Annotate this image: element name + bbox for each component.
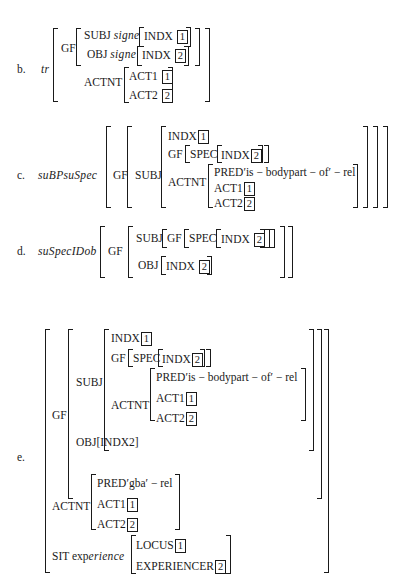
spec-indx: INDX 2: [221, 233, 265, 247]
outer-right-bracket: [383, 126, 388, 208]
sit-right-bracket: [226, 535, 231, 574]
feature-gf-spec: GF: [111, 353, 126, 365]
example-label: c.: [17, 170, 25, 182]
structure-name: tr: [41, 64, 49, 76]
subj-left-bracket: [104, 329, 109, 451]
act1-inner: ACT11: [156, 392, 197, 406]
tag-box: 2: [244, 197, 255, 211]
actnt-left-bracket: [208, 164, 213, 208]
actnt-inner-right-bracket: [301, 368, 306, 421]
example-label: b.: [17, 64, 26, 76]
outer-left-bracket: [106, 126, 111, 208]
actnt-right-bracket: [168, 67, 173, 103]
feature-actnt: ACTNT: [168, 177, 206, 189]
feature-actnt: ACTNT: [84, 77, 122, 89]
act1: ACT11: [97, 498, 138, 512]
spec-indx: INDX2: [162, 353, 203, 367]
obj-right-bracket: [207, 256, 212, 275]
experiencer: EXPERIENCER2: [136, 560, 226, 574]
subj-right-bracket: [270, 229, 275, 248]
tag-box: 1: [127, 498, 138, 512]
feature-spec: SPEC: [133, 353, 161, 365]
act2: ACT2 2: [129, 89, 173, 103]
gf2-right-bracket: [206, 349, 211, 367]
subj-right-bracket: [363, 126, 368, 208]
act2-inner: ACT22: [156, 412, 197, 426]
feature-sit: SIT experience: [52, 551, 124, 563]
feature-obj: OBJ: [138, 260, 158, 272]
feature-actnt-inner: ACTNT: [111, 400, 149, 412]
feature-gf: GF: [113, 170, 128, 182]
obj-indx: INDX 2: [142, 49, 186, 63]
structure-name: suSpecIDob: [38, 246, 97, 258]
subj-indx: INDX 1: [144, 30, 188, 44]
gf-right-bracket: [280, 226, 285, 278]
gf-right-bracket: [195, 28, 200, 66]
outer-right-bracket: [205, 28, 210, 102]
tag-box: 1: [186, 392, 197, 406]
gf-right-bracket: [317, 329, 322, 499]
example-label: d.: [17, 246, 26, 258]
subj-left-bracket: [161, 126, 166, 208]
act2: ACT22: [97, 518, 138, 532]
feature-gf: GF: [108, 246, 123, 258]
locus: LOCUS1: [136, 539, 186, 553]
gf-left-bracket: [68, 329, 73, 499]
feature-gf-spec: GF: [167, 233, 182, 245]
outer-left-bracket: [53, 28, 58, 102]
actnt-right-bracket: [353, 164, 358, 208]
outer-right-bracket: [288, 226, 293, 278]
feature-actnt: ACTNT: [52, 501, 90, 513]
feature-obj: OBJ[INDX2]: [76, 437, 139, 449]
subj-right-bracket: [186, 27, 191, 47]
indx: INDX1: [111, 332, 152, 346]
feature-subj: SUBJ signe: [84, 30, 140, 42]
actnt-right-bracket: [175, 474, 180, 530]
spec-indx: INDX2: [221, 149, 262, 163]
feature-subj: SUBJ: [136, 233, 163, 245]
outer-left-bracket: [45, 329, 50, 573]
tag-box: 2: [186, 412, 197, 426]
gf-left-bracket: [128, 226, 133, 278]
obj-indx: INDX 2: [166, 260, 210, 274]
feature-subj: SUBJ: [76, 377, 103, 389]
tag-box: 1: [141, 332, 152, 346]
actnt-left-bracket: [91, 474, 96, 530]
gf-right-bracket: [373, 126, 378, 208]
tag-box: 1: [175, 539, 186, 553]
tag-box: 1: [244, 182, 255, 196]
act2: ACT22: [214, 197, 255, 211]
tag-box: 2: [215, 560, 226, 574]
spec-right-bracket: [258, 145, 263, 163]
spec-right-bracket: [200, 349, 205, 367]
pred-inner: PRED′is − bodypart − of′ − rel: [156, 372, 297, 384]
feature-spec: SPEC: [189, 233, 217, 245]
pred: PRED′gba′ − rel: [97, 478, 172, 490]
indx: INDX1: [168, 130, 209, 144]
gf-left-bracket: [127, 126, 132, 208]
gf-left-bracket: [76, 28, 81, 66]
act1: ACT1 1: [129, 70, 173, 84]
pred: PRED′is − bodypart − of′ − rel: [214, 167, 355, 179]
actnt-inner-left-bracket: [150, 368, 155, 421]
tag-box: 2: [127, 518, 138, 532]
act1: ACT11: [214, 182, 255, 196]
feature-obj: OBJ signe: [87, 49, 136, 61]
feature-subj: SUBJ: [135, 170, 162, 182]
structure-name: suBPsuSpec: [38, 170, 97, 182]
feature-gf: GF: [61, 43, 76, 55]
outer-left-bracket: [100, 226, 105, 278]
feature-gf-spec: GF: [168, 149, 183, 161]
gf2-right-bracket: [264, 145, 269, 163]
subj-right-bracket: [309, 329, 314, 451]
feature-gf: GF: [52, 410, 67, 422]
outer-right-bracket: [324, 329, 329, 573]
tag-box: 1: [198, 130, 209, 144]
example-label: e.: [17, 452, 25, 464]
feature-spec: SPEC: [190, 149, 218, 161]
obj-right-bracket: [184, 46, 189, 66]
